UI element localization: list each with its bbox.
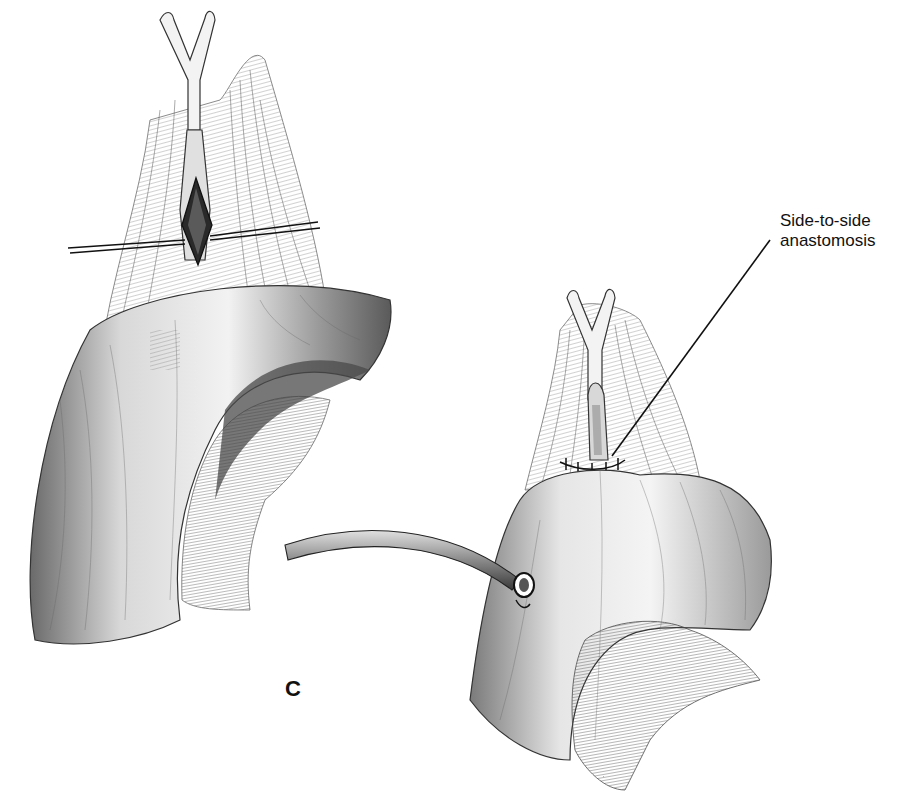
surgical-illustration — [0, 0, 909, 795]
callout-line-2: anastomosis — [780, 231, 875, 251]
callout-line-1: Side-to-side — [780, 211, 875, 231]
anastomosis-callout-label: Side-to-side anastomosis — [780, 211, 875, 251]
drain-tube — [285, 531, 520, 590]
panel-letter: C — [285, 676, 301, 702]
